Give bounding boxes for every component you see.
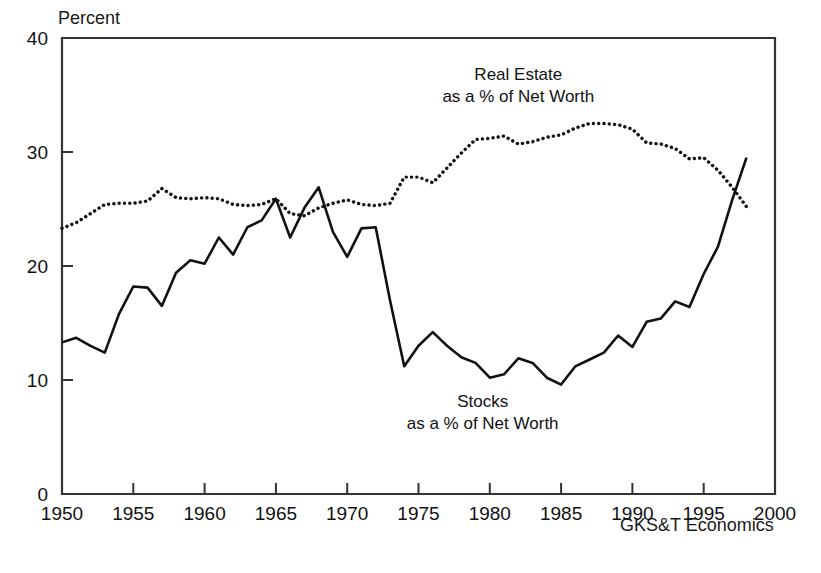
- y-axis-tick-label: 40: [27, 28, 48, 49]
- x-axis-tick-label: 1980: [469, 503, 511, 524]
- x-axis-tick-label: 1965: [255, 503, 297, 524]
- chart-figure: 0102030401950195519601965197019751980198…: [0, 0, 821, 573]
- chart-canvas: 0102030401950195519601965197019751980198…: [0, 0, 821, 573]
- y-axis-tick-label: 20: [27, 256, 48, 277]
- real-estate-label: Real Estateas a % of Net Worth: [442, 65, 594, 106]
- x-axis-tick-label: 1985: [540, 503, 582, 524]
- series-line: [62, 124, 746, 229]
- stocks-label: Stocksas a % of Net Worth: [407, 392, 559, 433]
- y-axis-tick-label: 30: [27, 142, 48, 163]
- series-line: [62, 158, 746, 385]
- y-axis-unit-label: Percent: [58, 8, 120, 29]
- x-axis-tick-label: 1950: [41, 503, 83, 524]
- y-axis-tick-label: 0: [37, 484, 48, 505]
- source-attribution: GKS&T Economics: [620, 515, 774, 536]
- x-axis-tick-label: 1970: [326, 503, 368, 524]
- x-axis-tick-label: 1975: [397, 503, 439, 524]
- y-axis-tick-label: 10: [27, 370, 48, 391]
- x-axis-tick-label: 1955: [112, 503, 154, 524]
- x-axis-tick-label: 1960: [183, 503, 225, 524]
